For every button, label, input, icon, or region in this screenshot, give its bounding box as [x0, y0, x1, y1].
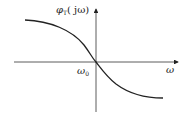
phase-curve	[25, 20, 163, 98]
origin-label: ω0	[77, 66, 89, 77]
phase-curve-diagram	[0, 0, 191, 121]
y-axis-label: φT( jω)	[56, 5, 89, 16]
x-axis-label: ω	[166, 65, 174, 75]
